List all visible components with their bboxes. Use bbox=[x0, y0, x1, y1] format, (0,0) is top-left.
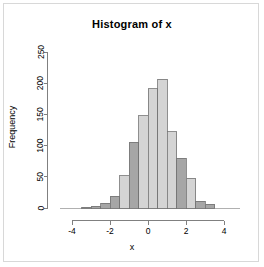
bars-group bbox=[82, 79, 215, 208]
x-axis-tick-label: -2 bbox=[106, 226, 114, 236]
y-axis-tick-label: 250 bbox=[36, 45, 46, 59]
histogram-bar bbox=[120, 176, 130, 208]
histogram-bar bbox=[129, 142, 139, 208]
histogram-bar bbox=[177, 158, 187, 208]
y-axis-tick-label: 0 bbox=[36, 205, 46, 210]
histogram-bar bbox=[158, 79, 168, 208]
histogram-bar bbox=[205, 204, 215, 208]
histogram-bar bbox=[167, 132, 177, 208]
y-axis-tick-label: 50 bbox=[36, 172, 46, 182]
histogram-bar bbox=[186, 178, 196, 208]
histogram-bar bbox=[139, 116, 149, 208]
x-axis-tick-label: -4 bbox=[68, 226, 76, 236]
plot-canvas: 050100150200250 -4-2024 bbox=[0, 0, 264, 267]
x-axis-tick-label: 0 bbox=[146, 226, 151, 236]
histogram-bar bbox=[101, 203, 111, 208]
y-axis-tick-label: 150 bbox=[36, 107, 46, 121]
y-axis-tick-label: 100 bbox=[36, 138, 46, 152]
histogram-bar bbox=[148, 89, 158, 208]
x-axis: -4-2024 bbox=[68, 221, 226, 236]
x-axis-tick-label: 2 bbox=[184, 226, 189, 236]
y-axis: 050100150200250 bbox=[36, 45, 48, 211]
histogram-bar bbox=[110, 196, 120, 208]
histogram-bar bbox=[196, 201, 206, 208]
x-axis-tick-label: 4 bbox=[222, 226, 227, 236]
histogram-bar bbox=[91, 206, 101, 208]
y-axis-tick-label: 200 bbox=[36, 76, 46, 90]
histogram-figure: Histogram of x Frequency x 0501001502002… bbox=[0, 0, 264, 267]
histogram-bar bbox=[82, 207, 92, 208]
